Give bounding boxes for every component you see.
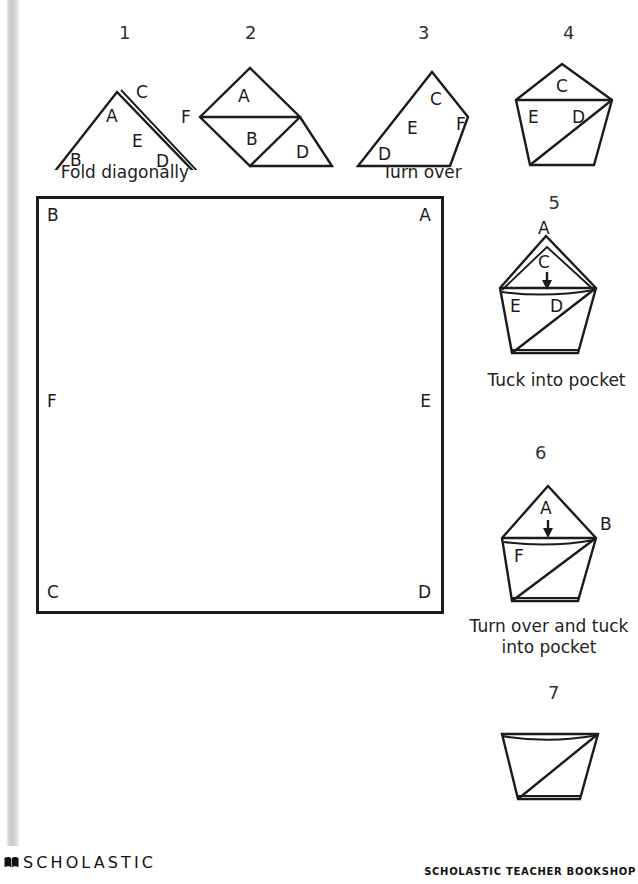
square-corner-top-left: B bbox=[47, 207, 59, 224]
square-corner-top-right: A bbox=[419, 207, 431, 224]
step-5-caption: Tuck into pocket bbox=[474, 370, 638, 391]
step-5-label-A: A bbox=[538, 218, 550, 238]
step-6-label-A: A bbox=[540, 498, 552, 518]
step-5-label-E: E bbox=[510, 296, 521, 316]
step-6-caption: Turn over and tuck into pocket bbox=[460, 616, 638, 659]
step-3-figure: C E F D bbox=[346, 50, 486, 170]
scholastic-logo-text: SCHOLASTIC bbox=[23, 853, 156, 872]
scan-edge-strip bbox=[6, 0, 19, 846]
step-1-label-C: C bbox=[136, 82, 148, 102]
step-3: 3 C E F D Turn over bbox=[346, 22, 486, 187]
step-4-number: 4 bbox=[504, 22, 634, 43]
step-3-label-F: F bbox=[456, 114, 466, 134]
step-5-number: 5 bbox=[472, 192, 637, 213]
open-book-icon bbox=[4, 856, 19, 869]
footer-attribution: SCHOLASTIC TEACHER BOOKSHOP bbox=[424, 866, 636, 877]
step-1-label-A: A bbox=[106, 106, 118, 126]
step-2: 2 A F B D bbox=[176, 22, 336, 187]
square-corner-bottom-right: D bbox=[418, 584, 431, 601]
step-3-label-D: D bbox=[378, 144, 391, 164]
square-corner-mid-right: E bbox=[420, 393, 431, 410]
step-3-label-C: C bbox=[430, 89, 442, 109]
step-2-label-D: D bbox=[296, 142, 309, 162]
step-7-figure bbox=[470, 706, 630, 816]
step-5-label-D: D bbox=[550, 296, 563, 316]
step-4: 4 C E D bbox=[500, 22, 630, 187]
step-1-label-E: E bbox=[132, 131, 143, 151]
step-2-label-A: A bbox=[238, 86, 250, 106]
step-3-label-E: E bbox=[407, 118, 418, 138]
step-7-number: 7 bbox=[474, 682, 634, 703]
step-4-label-E: E bbox=[528, 107, 539, 127]
step-6-figure: A B F bbox=[460, 468, 638, 608]
step-4-label-C: C bbox=[556, 76, 568, 96]
step-2-label-B: B bbox=[246, 129, 258, 149]
step-2-number: 2 bbox=[171, 22, 331, 43]
step-2-figure: A F B D bbox=[176, 50, 336, 170]
square-corner-bottom-left: C bbox=[47, 584, 59, 601]
step-6: 6 A B F Turn over and tuck into pocket bbox=[460, 442, 638, 672]
step-5-label-C: C bbox=[538, 252, 550, 272]
worksheet-square: B A F E C D bbox=[36, 196, 444, 614]
down-arrow-icon bbox=[543, 520, 553, 538]
step-6-label-F: F bbox=[514, 546, 524, 566]
step-6-label-B: B bbox=[600, 514, 612, 534]
step-4-figure: C E D bbox=[500, 50, 630, 170]
square-corner-mid-left: F bbox=[47, 393, 57, 410]
step-6-number: 6 bbox=[452, 442, 630, 463]
scholastic-logo: SCHOLASTIC bbox=[4, 853, 156, 872]
step-2-label-F: F bbox=[181, 107, 191, 127]
step-4-label-D: D bbox=[572, 107, 585, 127]
step-5-figure: A C E D bbox=[468, 218, 633, 358]
step-5: 5 A C E D Tuck into pocket bbox=[468, 192, 633, 422]
step-3-caption: Turn over bbox=[352, 162, 492, 183]
step-7: 7 bbox=[470, 682, 630, 822]
step-3-number: 3 bbox=[354, 22, 494, 43]
worksheet-page: 1 A C E B D Fold diagonally 2 A F B D bbox=[0, 0, 638, 884]
